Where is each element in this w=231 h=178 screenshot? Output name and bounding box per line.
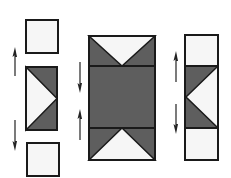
left-column [26,20,59,176]
left-bottom-square [27,143,59,176]
quilt-assembly-diagram [0,0,231,178]
left-top-square [26,20,58,53]
left-up-arrow-icon [13,47,18,76]
left-flying-geese-unit [26,67,57,130]
center-up-arrow-icon [78,109,83,140]
left-down-arrow-icon [13,120,18,151]
right-column [185,35,218,160]
right-up-arrow-icon [174,51,179,82]
right-down-arrow-icon [174,104,179,134]
center-down-arrow-icon [78,62,83,93]
center-column [89,36,155,160]
